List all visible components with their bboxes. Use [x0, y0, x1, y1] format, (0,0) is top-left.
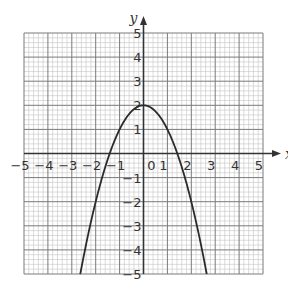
- y-tick-label: 3: [133, 74, 141, 89]
- x-tick-label: 3: [207, 158, 215, 173]
- x-tick-label: 4: [231, 158, 239, 173]
- x-tick-label: −4: [34, 158, 53, 173]
- y-tick-label: −2: [122, 195, 141, 210]
- y-axis-arrow-icon: [140, 16, 147, 25]
- x-axis-arrow-icon: [272, 150, 281, 157]
- y-tick-label: −3: [122, 219, 141, 234]
- x-axis-label: x: [285, 146, 288, 162]
- y-tick-label: 4: [133, 50, 141, 65]
- x-tick-label: −2: [82, 158, 101, 173]
- x-tick-label: −5: [10, 158, 29, 173]
- y-tick-label: 1: [133, 122, 141, 137]
- x-tick-label: 5: [255, 158, 263, 173]
- x-tick-label: 0: [147, 158, 155, 173]
- x-tick-label: 2: [183, 158, 191, 173]
- x-tick-label: 1: [159, 158, 167, 173]
- y-tick-label: −4: [122, 243, 141, 258]
- y-tick-label: 5: [133, 26, 141, 41]
- y-axis-label: y: [129, 10, 139, 26]
- parabola-graph: −5−4−3−2−1012345−5−4−3−2−112345 x y: [0, 0, 288, 289]
- x-tick-label: −3: [58, 158, 77, 173]
- y-tick-label: −5: [122, 267, 141, 282]
- y-tick-label: −1: [122, 171, 141, 186]
